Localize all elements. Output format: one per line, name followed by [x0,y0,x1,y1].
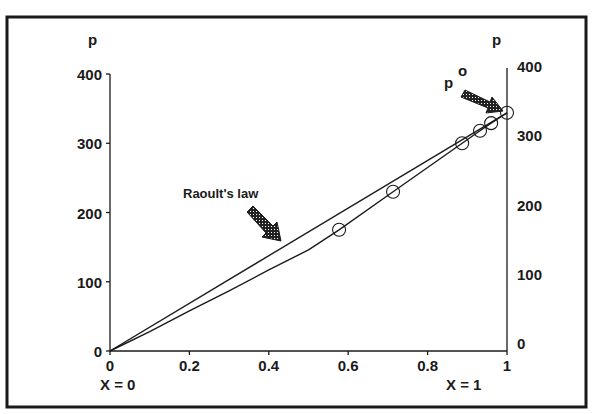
x-tick-label: 0.2 [179,357,200,374]
p0-superscript: o [458,62,467,79]
raoult-law-chart: 0010010020020030030040040000.20.40.60.81… [0,0,598,414]
y-tick-label-left: 200 [77,205,102,222]
raoult-law-label: Raoult's law [183,186,259,201]
x-tick-label: 0.8 [417,357,438,374]
y-tick-label-left: 300 [77,135,102,152]
p0-label: p [444,74,453,91]
y-tick-label-right: 400 [517,58,542,75]
y-axis-title-left: p [88,31,97,48]
x-tick-label: 0 [106,357,114,374]
y-tick-label-left: 100 [77,274,102,291]
x-axis-label-left: X = 0 [100,376,135,393]
y-tick-label-right: 0 [517,335,525,352]
y-axis-title-right: p [492,31,501,48]
y-tick-label-left: 0 [94,343,102,360]
y-tick-label-right: 200 [517,197,542,214]
y-tick-label-right: 100 [517,266,542,283]
x-tick-label: 0.6 [338,357,359,374]
y-tick-label-left: 400 [77,66,102,83]
x-tick-label: 0.4 [258,357,280,374]
y-tick-label-right: 300 [517,127,542,144]
x-tick-label: 1 [503,357,511,374]
x-axis-label-right: X = 1 [446,376,481,393]
